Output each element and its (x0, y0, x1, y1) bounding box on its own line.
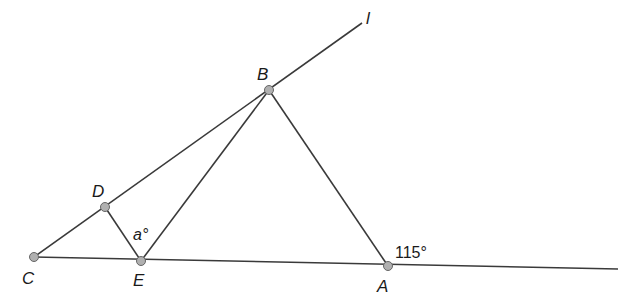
label-b: B (257, 66, 268, 83)
point-a (384, 262, 393, 271)
label-d: D (92, 183, 104, 200)
line-l (34, 23, 362, 257)
point-e (137, 257, 146, 266)
segment-be (141, 90, 269, 261)
segment-ba (269, 90, 388, 266)
point-b (265, 86, 274, 95)
label-l: l (366, 10, 370, 27)
diagram-lines (0, 0, 638, 307)
point-c (30, 253, 39, 262)
angle-115-label: 115° (395, 245, 427, 261)
label-a: A (377, 278, 388, 295)
geometry-diagram: l B D C E A a° 115° (0, 0, 638, 307)
label-c: C (22, 270, 34, 287)
point-d (101, 203, 110, 212)
label-e: E (133, 272, 144, 289)
line-ca (34, 257, 618, 269)
angle-a-label: a° (133, 227, 148, 243)
